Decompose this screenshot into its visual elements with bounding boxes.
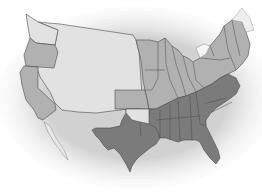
us-map bbox=[0, 0, 262, 192]
state-kansas bbox=[115, 90, 149, 109]
